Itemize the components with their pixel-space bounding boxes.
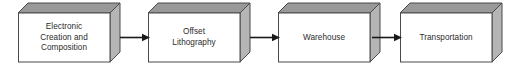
flow-arrow-icon <box>120 32 150 43</box>
flow-arrow-icon <box>372 32 402 43</box>
process-flow-diagram: Electronic Creation and Composition Offs… <box>0 0 515 73</box>
process-node-transportation: Transportation <box>400 2 492 52</box>
process-node-label: Offset Lithography <box>148 13 240 63</box>
process-node-warehouse: Warehouse <box>278 2 370 52</box>
process-node-offset-lithography: Offset Lithography <box>148 2 240 52</box>
flow-arrow-icon <box>250 32 280 43</box>
process-node-label: Transportation <box>400 13 492 63</box>
process-node-label: Electronic Creation and Composition <box>18 13 110 63</box>
process-node-label: Warehouse <box>278 13 370 63</box>
process-node-electronic-creation-and-composition: Electronic Creation and Composition <box>18 2 110 52</box>
